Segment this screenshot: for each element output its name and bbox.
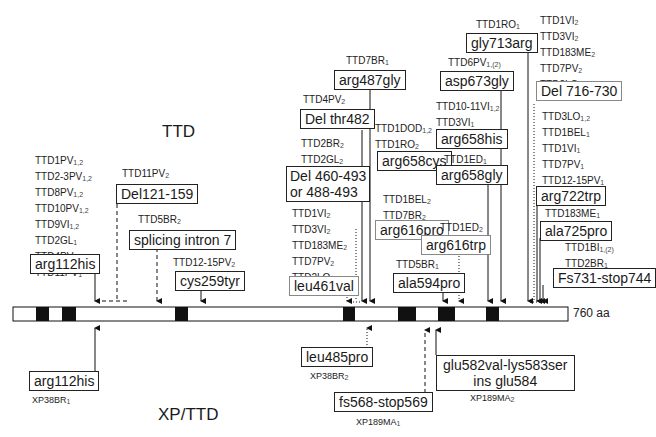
mutation-fs731-stop744: Fs731-stop744 xyxy=(553,268,656,288)
mutation-arg112his-xp: arg112his xyxy=(29,371,99,391)
patient-xp189ma2: XP189MA2 xyxy=(470,391,514,407)
patients-delthr482: TTD4PV2 xyxy=(303,93,345,109)
mutation-arg112his-ttd: arg112his xyxy=(30,254,100,274)
mutation-del460-line1: Del 460-493 xyxy=(290,168,366,184)
mutation-del460-line2: or 488-493 xyxy=(290,184,366,200)
patients-asp673gly: TTD6PV1,(2) xyxy=(448,56,501,72)
patients-gly713arg: TTD1RO1 xyxy=(476,18,520,34)
patients-arg658cys: TTD1DOD1,2TTD1RO2 xyxy=(375,122,432,154)
mutation-del-716-730: Del 716-730 xyxy=(536,81,622,101)
patient-xp189ma1: XP189MA1 xyxy=(356,415,400,431)
patient-xp38br2: XP38BR2 xyxy=(310,369,348,385)
mutation-fs568-stop569: fs568-stop569 xyxy=(334,392,433,412)
mutation-arg658gly: arg658gly xyxy=(436,165,508,185)
patients-splicing: TTD5BR2 xyxy=(138,213,181,229)
mutation-glu582val: glu582val-lys583ser ins glu584 xyxy=(436,355,575,391)
patients-ala594pro: TTD5BR1 xyxy=(396,258,439,274)
mutation-del-thr482: Del thr482 xyxy=(300,109,375,129)
protein-length-label: 760 aa xyxy=(573,306,610,320)
mutation-leu485pro: leu485pro xyxy=(301,347,373,367)
patients-leu461val: TTD1VI2TTD3VI2TTD183ME2TTD7PV2TTD2LO2 xyxy=(292,207,347,287)
mutation-arg616trp: arg616trp xyxy=(421,235,491,255)
mutation-ala725pro: ala725pro xyxy=(540,221,612,241)
patients-arg487gly: TTD7BR1 xyxy=(346,54,389,70)
mutation-arg658his: arg658his xyxy=(436,129,508,149)
mutation-cys259tyr: cys259tyr xyxy=(175,271,245,291)
mutation-arg722trp: arg722trp xyxy=(536,186,606,206)
mutation-del121-159: Del121-159 xyxy=(116,184,198,204)
mutation-del-460-493: Del 460-493 or 488-493 xyxy=(286,166,370,202)
patient-xp38br1: XP38BR1 xyxy=(32,393,70,409)
mutation-glu582-line2: ins glu584 xyxy=(443,373,568,389)
protein-bar xyxy=(13,307,568,321)
mutation-ala594pro: ala594pro xyxy=(393,273,465,293)
patients-arg658his: TTD10-11VI1,2TTD3VI1 xyxy=(436,100,499,132)
mutation-glu582-line1: glu582val-lys583ser xyxy=(443,357,568,373)
mutation-splicing-intron7: splicing intron 7 xyxy=(129,230,236,250)
mutation-asp673gly: asp673gly xyxy=(440,71,514,91)
mutation-leu461val: leu461val xyxy=(289,276,359,296)
patients-del460: TTD2BR2TTD2GL2 xyxy=(301,137,344,169)
patients-del121: TTD11PV2 xyxy=(122,167,169,183)
patients-cys259tyr: TTD12-15PV2 xyxy=(173,256,235,272)
mutation-arg487gly: arg487gly xyxy=(334,70,406,90)
mutation-gly713arg: gly713arg xyxy=(466,33,538,53)
